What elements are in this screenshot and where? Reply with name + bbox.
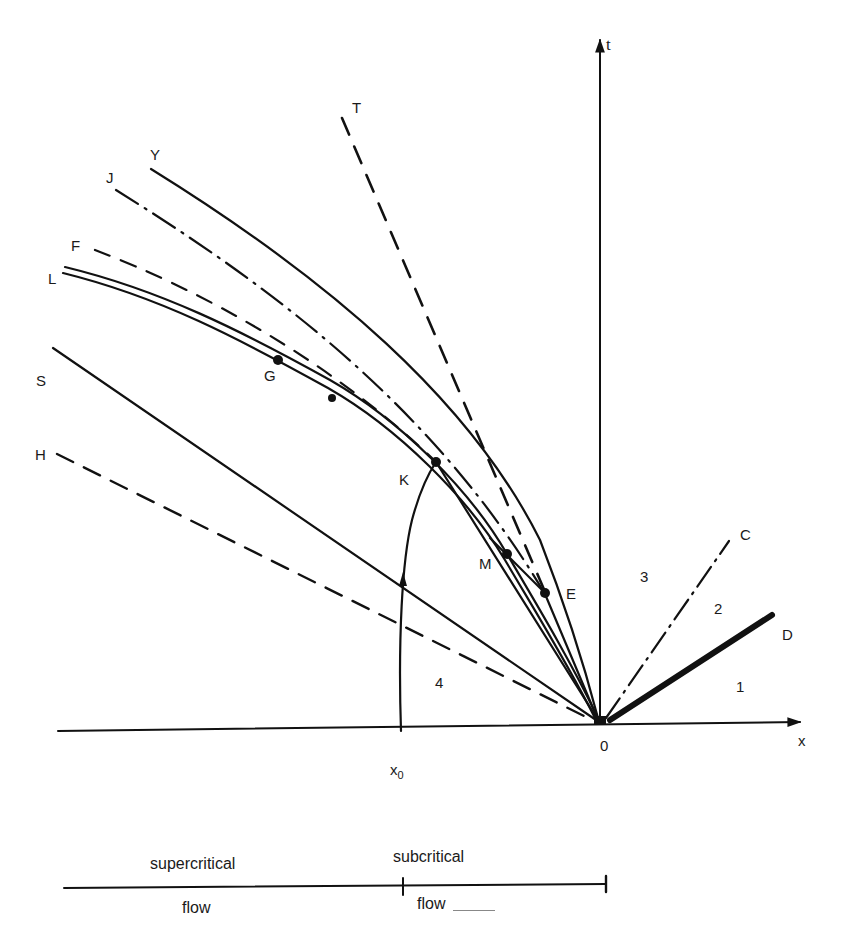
label-T: T: [352, 100, 361, 115]
label-K: K: [399, 472, 409, 487]
label-E: E: [566, 586, 576, 601]
label-D: D: [782, 627, 793, 642]
point-E: [540, 588, 550, 598]
line-C: [606, 541, 729, 718]
supercritical-flow-label: flow: [182, 900, 210, 916]
curve-F: [95, 250, 436, 462]
curve-L-upper: [65, 267, 598, 718]
trajectory-x0-K: [400, 462, 436, 731]
point-G2: [328, 394, 336, 402]
label-S: S: [36, 373, 46, 388]
point-M: [502, 549, 512, 559]
subcritical-label: subcritical: [393, 849, 464, 865]
x-axis: [58, 722, 800, 731]
x-axis-label: x: [798, 733, 806, 748]
subcritical-flow-label: flow: [417, 896, 445, 912]
label-C: C: [740, 527, 751, 542]
region-3: 3: [640, 569, 648, 584]
label-M: M: [479, 556, 492, 571]
line-T: [342, 118, 546, 594]
region-2: 2: [714, 601, 722, 616]
x0-label: x0: [390, 762, 404, 781]
label-Y: Y: [150, 147, 160, 162]
label-F: F: [71, 238, 80, 253]
region-4: 4: [435, 675, 443, 690]
region-1: 1: [736, 679, 744, 694]
t-axis-label: t: [606, 36, 611, 53]
point-G: [273, 355, 283, 365]
curve-Y: [151, 169, 598, 718]
line-M-E: [490, 538, 546, 594]
label-G: G: [264, 368, 276, 383]
trajectory-arrow-icon: [399, 572, 407, 586]
origin-marker: [594, 716, 606, 725]
line-H: [57, 454, 592, 720]
x0-subscript: 0: [398, 769, 404, 781]
underline-mark: [453, 910, 495, 911]
point-K: [431, 457, 441, 467]
supercritical-label: supercritical: [150, 856, 235, 872]
x0-main: x: [390, 761, 398, 778]
origin-label: 0: [600, 738, 608, 753]
flow-regime-scale: [64, 876, 606, 895]
line-D: [610, 615, 772, 720]
line-S: [53, 348, 596, 720]
label-L: L: [48, 271, 56, 286]
label-J: J: [106, 170, 114, 185]
label-H: H: [35, 447, 46, 462]
characteristics-diagram: [0, 0, 845, 940]
